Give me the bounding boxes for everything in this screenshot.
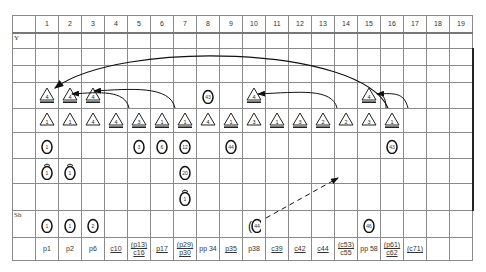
- grid-cell: [450, 184, 473, 211]
- footer-ref: p38: [248, 245, 260, 252]
- grid-cell: 1: [59, 109, 82, 133]
- footer-ref: p1: [43, 245, 51, 252]
- grid-cell: [381, 49, 404, 66]
- svg-text:4: 4: [91, 94, 94, 100]
- grid-row: 1144311413132231: [13, 109, 473, 133]
- grid-cell: [220, 211, 243, 238]
- row-label: [13, 238, 36, 261]
- footer-ref: pp 58: [360, 245, 378, 252]
- footer-cell: p6: [82, 238, 105, 261]
- grid-cell: [151, 184, 174, 211]
- triangle-icon: 1: [154, 112, 170, 128]
- grid-cell: [312, 83, 335, 109]
- grid-cell: [174, 49, 197, 66]
- grid-cell: [36, 184, 59, 211]
- grid-cell: [151, 33, 174, 49]
- grid-cell: [335, 33, 358, 49]
- grid-cell: [312, 133, 335, 159]
- column-header: 12: [289, 16, 312, 33]
- footer-ref: (p13): [131, 241, 147, 248]
- svg-text:1: 1: [160, 119, 163, 125]
- grid-cell: 43: [197, 83, 220, 109]
- grid-cell: [404, 83, 427, 109]
- triangle-icon: 3: [131, 112, 147, 128]
- svg-text:3: 3: [298, 119, 301, 125]
- grid-cell: 44: [220, 133, 243, 159]
- circle-icon: 2: [86, 215, 100, 233]
- grid-cell: [174, 66, 197, 83]
- footer-ref: c10: [110, 245, 121, 252]
- grid-cell: [151, 66, 174, 83]
- grid-cell: [289, 133, 312, 159]
- grid-cell: [358, 49, 381, 66]
- grid-cell: [197, 33, 220, 49]
- grid-cell: 1: [36, 211, 59, 238]
- circle-icon: 43: [385, 136, 399, 154]
- grid-cell: [82, 184, 105, 211]
- grid-cell: [220, 184, 243, 211]
- svg-text:1: 1: [183, 119, 186, 125]
- grid-cell: [220, 49, 243, 66]
- grid-cell: [243, 133, 266, 159]
- grid-cell: [105, 49, 128, 66]
- svg-text:4: 4: [91, 119, 94, 125]
- row-label: Y: [13, 33, 36, 49]
- svg-text:2: 2: [344, 119, 347, 125]
- grid-cell: [59, 66, 82, 83]
- triangle-icon: 4: [108, 112, 124, 128]
- column-header: 18: [427, 16, 450, 33]
- grid-cell: [289, 83, 312, 109]
- grid-cell: [197, 66, 220, 83]
- grid-cell: [105, 159, 128, 184]
- footer-cell: pp 58: [358, 238, 381, 261]
- grid-row: 12345678910111213141516171819: [13, 16, 473, 33]
- grid-cell: 1: [59, 211, 82, 238]
- grid-cell: [427, 184, 450, 211]
- grid-row: Sh11244()46: [13, 211, 473, 238]
- row-label: [13, 49, 36, 66]
- footer-cell: (p29)p30: [174, 238, 197, 261]
- grid-cell: [358, 133, 381, 159]
- column-header: 3: [82, 16, 105, 33]
- circle-icon: 44: [224, 136, 238, 154]
- row-label: [13, 159, 36, 184]
- grid-cell: 1: [220, 109, 243, 133]
- svg-text:4: 4: [45, 94, 48, 100]
- footer-ref: pp 34: [199, 245, 217, 252]
- footer-cell: c42: [289, 238, 312, 261]
- circle-icon: 1: [63, 162, 77, 180]
- grid-cell: [289, 211, 312, 238]
- footer-cell: p2: [59, 238, 82, 261]
- grid-cell: 20: [174, 159, 197, 184]
- triangle-icon: 1: [384, 112, 400, 128]
- circle-icon: 1: [40, 215, 54, 233]
- grid-cell: [82, 33, 105, 49]
- circle-icon: 20: [178, 162, 192, 180]
- row-label: [13, 16, 36, 33]
- circle-icon: 6: [155, 136, 169, 154]
- svg-text:44: 44: [228, 144, 234, 150]
- grid-cell: [174, 33, 197, 49]
- grid-cell: [381, 66, 404, 83]
- triangle-icon: 3: [246, 112, 262, 128]
- footer-cell: c39: [266, 238, 289, 261]
- grid-cell: [197, 133, 220, 159]
- grid-cell: [128, 33, 151, 49]
- footer-ref-2: c55: [340, 249, 351, 256]
- grid-cell: [427, 159, 450, 184]
- svg-text:4: 4: [68, 94, 71, 100]
- grid-cell: [266, 33, 289, 49]
- row-label: [13, 133, 36, 159]
- grid-cell: [197, 211, 220, 238]
- grid-cell: [358, 184, 381, 211]
- grid-cell: 2: [312, 109, 335, 133]
- triangle-icon: 3: [292, 112, 308, 128]
- svg-text:3: 3: [137, 119, 140, 125]
- grid-cell: [335, 159, 358, 184]
- column-header: 7: [174, 16, 197, 33]
- grid-cell: 1: [59, 159, 82, 184]
- grid-cell: [220, 159, 243, 184]
- svg-text:2: 2: [321, 119, 324, 125]
- column-header: 6: [151, 16, 174, 33]
- grid-cell: [266, 49, 289, 66]
